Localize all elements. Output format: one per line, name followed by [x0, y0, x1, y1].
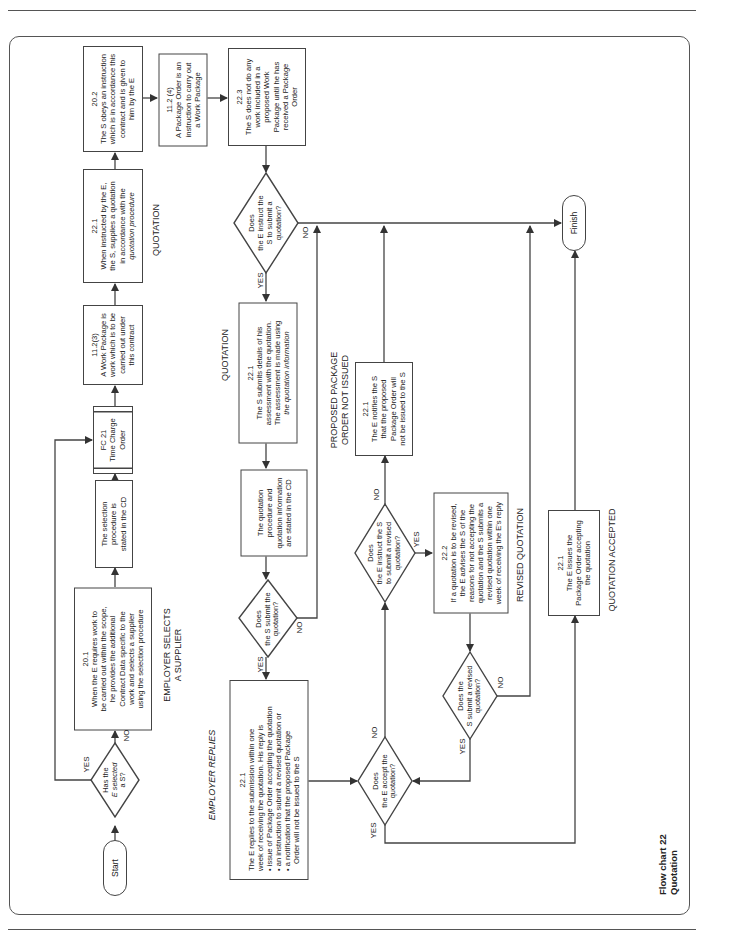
yes-label: YES: [82, 756, 91, 772]
box-text: The E issues the: [565, 535, 574, 592]
label-employer-selects: EMPLOYER SELECTS A SUPPLIER: [158, 600, 188, 710]
clause-ref: 22.1: [245, 365, 254, 380]
clause-ref: 20.2: [90, 92, 99, 107]
clause-ref: 11.2(3): [90, 333, 99, 357]
clause-ref: 22.1: [361, 402, 370, 417]
box-text: received a Package: [281, 64, 290, 131]
finish-label: Finish: [569, 212, 579, 235]
box-text: an instruction to submit a revised quota…: [273, 713, 282, 866]
box-text: quotation procedure: [127, 192, 136, 260]
box-text: The quotation: [255, 489, 264, 535]
box-22-1-employer-reply: 22.1 The E replies to the submission wit…: [229, 680, 308, 880]
section-label: EMPLOYER SELECTS: [162, 608, 173, 702]
box-text: instruction to carry out: [183, 62, 192, 137]
box-text: The S does not do any: [244, 59, 253, 135]
box-fc21-subprocess[interactable]: FC 21 Time Charge Order: [93, 406, 133, 474]
box-text: Order: [290, 87, 299, 106]
box-text: Contract Data specific to the: [118, 611, 127, 706]
box-text: quotation information: [274, 477, 283, 548]
no-label: NO: [295, 622, 304, 634]
box-22-2: 22.2 If a quotation is to be revised, th…: [433, 492, 508, 613]
box-text: carried out under: [118, 316, 127, 373]
decision-text: quotation?: [474, 678, 483, 713]
clause-ref: 11.2 (4): [164, 87, 173, 113]
label-revised-quotation: REVISED QUOTATION: [512, 500, 528, 610]
figure-title: Flow chart 22 Quotation: [656, 825, 682, 895]
clause-ref: 22.3: [235, 90, 244, 105]
box-text: a Work Package: [192, 72, 201, 128]
box-text: Package until he has: [272, 62, 281, 133]
box-22-1-supply: 22.1 When instructed by the E, the S, su…: [83, 169, 143, 283]
box-text: The assessment is made using: [272, 320, 281, 425]
box-11-2-4: 11.2 (4) A Package Order is an instructi…: [158, 53, 207, 146]
section-label: A SUPPLIER: [173, 629, 184, 682]
no-label: NO: [370, 727, 379, 739]
decision-text: quotation?: [394, 536, 403, 571]
box-quotation-procedure: The quotation procedure and quotation in…: [240, 469, 307, 556]
box-text: work included in a: [253, 67, 262, 128]
label-quotation-top: QUOTATION: [148, 195, 164, 265]
box-text: A Work Package is: [99, 313, 108, 377]
clause-ref: 22.1: [556, 556, 565, 571]
box-text: When the E requires work to: [90, 611, 99, 707]
decision-instruct-submit: Does the E instruct the S to submit a qu…: [234, 173, 298, 273]
box-text: work which is to be: [108, 313, 117, 377]
no-label: NO: [496, 677, 505, 689]
box-text: this contract: [127, 325, 136, 366]
bullet-item: • an instruction to submit a revised quo…: [273, 713, 282, 871]
section-label: QUOTATION ACCEPTED: [607, 508, 618, 611]
box-text: proposed Work: [262, 71, 271, 122]
box-text: he provides the additional: [108, 615, 117, 702]
box-text: the E advises the S of the: [457, 509, 466, 596]
clause-ref: 20.1: [81, 651, 90, 666]
decision-text: quotation?: [389, 764, 398, 799]
decision-has-selected: Has the E selected a S?: [91, 743, 139, 817]
yes-label: YES: [256, 656, 265, 672]
box-text: Time Charge: [108, 418, 117, 462]
box-text: issue of Package Order accepting the quo…: [264, 706, 273, 866]
decision-s-submit-revised: Does the S submit a revised quotation?: [443, 652, 497, 739]
box-text: week of receiving the E's reply: [493, 501, 502, 603]
box-text: The selection: [100, 501, 109, 546]
box-text: stated in the CD: [119, 497, 128, 551]
box-text: assessment with the quotation.: [263, 320, 272, 424]
yes-label: YES: [369, 822, 378, 838]
box-20-1: 20.1 When the E requires work to be carr…: [74, 587, 152, 730]
label-quotation-accepted: QUOTATION ACCEPTED: [604, 505, 620, 615]
box-text: work and selects a supplier: [127, 613, 136, 705]
box-22-1-assessment: 22.1 The S submits details of his assess…: [238, 302, 297, 443]
box-text: which is in accordance this: [108, 54, 117, 144]
box-11-2-3: 11.2(3) A Work Package is work which is …: [83, 305, 143, 385]
box-text: The S obeys an instruction: [99, 54, 108, 144]
box-text: quotation and the S submits a: [475, 502, 484, 602]
box-text: Package Order accepting: [574, 520, 583, 606]
no-label: NO: [301, 227, 310, 239]
box-text: When instructed by the E,: [99, 183, 108, 270]
decision-text: quotation?: [275, 206, 284, 241]
section-label: ORDER NOT ISSUED: [340, 355, 351, 445]
no-label: NO: [122, 730, 131, 742]
section-label: QUOTATION: [151, 204, 162, 256]
start-label: Start: [110, 859, 120, 877]
box-text: a notification that the proposed Package: [282, 731, 291, 867]
box-text: reasons for not accepting the: [466, 504, 475, 602]
box-text: the S, supplies a quotation: [108, 181, 117, 271]
section-label: EMPLOYER REPLIES: [207, 730, 218, 821]
box-text: in accordance with the: [118, 188, 127, 264]
decision-e-accept: Does the E accept the quotation?: [358, 737, 412, 825]
section-label: REVISED QUOTATION: [515, 508, 526, 602]
box-text: The E replies to the submission within o…: [246, 729, 255, 871]
box-text: not be issued to the S: [398, 372, 407, 445]
box-text: the quotation: [583, 541, 592, 585]
label-quotation-mid: QUOTATION: [217, 320, 233, 390]
box-20-2: 20.2 The S obeys an instruction which is…: [83, 46, 143, 152]
decision-instruct-revised: Does the E instruct the S to submit a re…: [355, 504, 415, 602]
decision-text: quotation?: [272, 601, 281, 636]
clause-ref: 22.1: [237, 773, 246, 788]
box-text: A Package Order is an: [173, 62, 182, 138]
label-employer-replies: EMPLOYER REPLIES: [204, 720, 220, 830]
no-label: NO: [372, 489, 381, 501]
box-22-1-issue: 22.1 The E issues the Package Order acce…: [548, 510, 600, 616]
clause-ref: 22.2: [439, 545, 448, 560]
box-text: Order will not be issued to the S: [291, 756, 300, 871]
